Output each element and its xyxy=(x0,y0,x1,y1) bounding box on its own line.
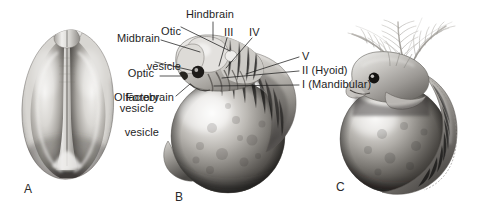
embryo-a-highlight-left xyxy=(33,50,59,98)
label-arch-i: I (Mandibular) xyxy=(302,79,371,91)
panel-letter-c: C xyxy=(336,180,345,194)
embryo-b-optic-vesicle xyxy=(192,66,204,78)
embryo-b-optic-highlight xyxy=(194,68,198,72)
label-hindbrain: Hindbrain xyxy=(186,9,234,21)
embryo-c-eye-highlight xyxy=(371,75,374,78)
panel-letter-a: A xyxy=(24,182,32,196)
label-olfactory-vesicle: Olfactory vesicle xyxy=(88,69,159,161)
panel-c-embryo xyxy=(332,18,457,200)
label-midbrain: Midbrain xyxy=(96,33,160,45)
embryo-development-figure: Otic vesicle Hindbrain III IV Midbrain O… xyxy=(0,0,489,208)
label-forebrain: Forebrain xyxy=(110,92,174,104)
label-olfactory-vesicle-line2: vesicle xyxy=(88,127,159,139)
label-arch-v: V xyxy=(302,51,309,63)
label-arch-ii: II (Hyoid) xyxy=(302,65,348,77)
label-arch-iii: III xyxy=(224,27,233,39)
embryo-b-otic-vesicle xyxy=(225,51,237,62)
label-arch-iv: IV xyxy=(249,27,260,39)
illustration-canvas xyxy=(0,0,489,208)
embryo-b-yolk-highlight xyxy=(179,92,231,132)
panel-letter-b: B xyxy=(175,190,183,204)
